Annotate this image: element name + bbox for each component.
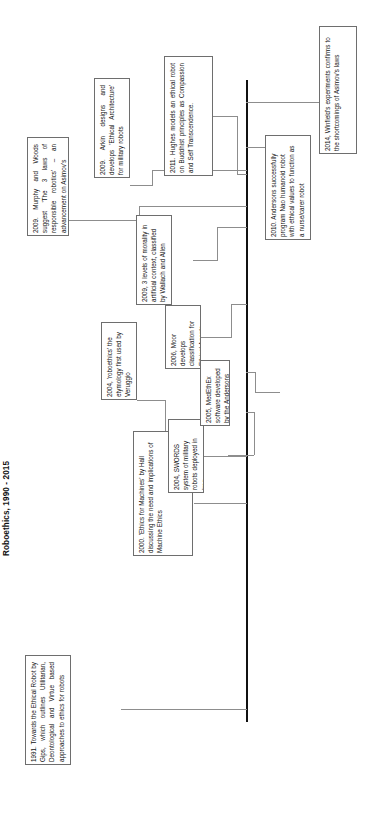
event-text-2009-arkin: 2009. Arkin designs and develops 'Ethica… <box>95 81 130 178</box>
connector-2009-murphy-a <box>69 220 139 221</box>
event-text-2010: 2010. Andersons successfully program Nao… <box>266 138 311 240</box>
event-text-1991: 1991. Towards the Ethical Robot by Gips,… <box>26 658 71 765</box>
event-box-2014-winfield-experiments[interactable]: 2014, Winfield's experiments confirms to… <box>319 26 357 154</box>
connector-2005-c <box>246 372 256 373</box>
connector-2009-murphy-d <box>139 206 247 207</box>
connector-2014 <box>246 102 319 103</box>
event-text-2009-morality: 2009, 3 levels of morality in artificial… <box>137 218 172 305</box>
event-text-2005: 2005, MedEthEx software developed by the… <box>201 363 230 426</box>
connector-2005-b <box>255 372 256 393</box>
connector-2010-a <box>246 147 266 148</box>
event-box-2004-swords-iraq[interactable]: 2004, SWORDS system of military robots d… <box>168 419 204 493</box>
connector-2009-morality-a <box>193 260 217 261</box>
connector-2011-b <box>237 116 238 174</box>
connector-2006-a <box>201 337 231 338</box>
connector-2000 <box>194 503 247 504</box>
event-text-2004-roboethics: 2004, 'roboethics' the etymology first u… <box>102 325 137 400</box>
connector-2005-a <box>255 392 280 393</box>
connector-1991 <box>121 709 247 710</box>
connector-2011-a <box>213 116 237 117</box>
connector-2004-swords-a <box>228 455 254 456</box>
connector-2004-roboethics-a <box>137 400 165 401</box>
connector-2004-swords-b <box>254 412 255 455</box>
event-text-2014: 2014, Winfield's experiments confirms to… <box>320 29 357 154</box>
connector-2006-c <box>231 304 247 305</box>
event-box-2005-medethex[interactable]: 2005, MedEthEx software developed by the… <box>200 360 230 426</box>
connector-2011-c <box>237 174 247 175</box>
connector-2006-b <box>231 304 232 338</box>
connector-2009-arkin-b <box>152 170 153 186</box>
connector-2009-morality-b <box>217 227 218 261</box>
event-box-1991-towards-ethical-robot[interactable]: 1991. Towards the Ethical Robot by Gips,… <box>25 655 71 765</box>
event-box-2006-moor-classification[interactable]: 2006, Moor develops classification for E… <box>165 305 201 369</box>
page-title: Roboethics, 1990 - 2015 <box>0 396 14 556</box>
timeline-axis <box>246 80 248 722</box>
event-box-2009-levels-of-morality[interactable]: 2009, 3 levels of morality in artificial… <box>136 215 172 305</box>
event-box-2011-hughes-buddhist[interactable]: 2011. Hughes models an ethical robot on … <box>164 56 213 176</box>
event-text-2011: 2011. Hughes models an ethical robot on … <box>165 59 213 176</box>
event-text-2009-murphy: 2009. Murphy and Woods suggest 'The 3 la… <box>28 140 69 236</box>
connector-2004-swords-c <box>246 412 255 413</box>
connector-2009-morality-c <box>217 227 247 228</box>
event-box-2010-andersons-nao[interactable]: 2010. Andersons successfully program Nao… <box>265 135 311 240</box>
event-text-2006: 2006, Moor develops classification for E… <box>166 308 201 369</box>
event-box-2009-murphy-woods[interactable]: 2009. Murphy and Woods suggest 'The 3 la… <box>27 137 69 236</box>
event-text-2004-swords: 2004, SWORDS system of military robots d… <box>169 422 204 493</box>
event-box-2009-arkin-ethical-architecture[interactable]: 2009. Arkin designs and develops 'Ethica… <box>94 78 130 178</box>
timeline-diagram-page: Roboethics, 1990 - 2015 1991. Towards <box>0 0 377 814</box>
connector-2009-arkin-a <box>130 185 152 186</box>
event-box-2004-roboethics-etymology[interactable]: 2004, 'roboethics' the etymology first u… <box>101 322 137 400</box>
